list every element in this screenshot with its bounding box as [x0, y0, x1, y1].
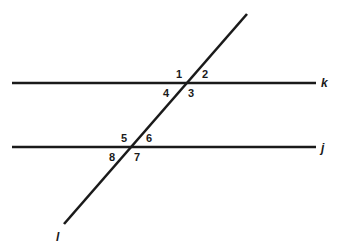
angle-5-label: 5	[121, 132, 127, 144]
parallel-lines-diagram: 1 2 3 4 5 6 7 8 k j l	[0, 0, 337, 247]
angle-8-label: 8	[109, 151, 115, 163]
angle-1-label: 1	[176, 68, 182, 80]
angle-2-label: 2	[202, 68, 208, 80]
line-k-label: k	[321, 76, 329, 90]
transversal-l	[64, 14, 247, 224]
line-j-label: j	[319, 141, 325, 155]
angle-6-label: 6	[146, 132, 152, 144]
line-l-label: l	[56, 230, 60, 244]
angle-4-label: 4	[163, 87, 170, 99]
angle-7-label: 7	[134, 151, 140, 163]
angle-3-label: 3	[188, 87, 194, 99]
